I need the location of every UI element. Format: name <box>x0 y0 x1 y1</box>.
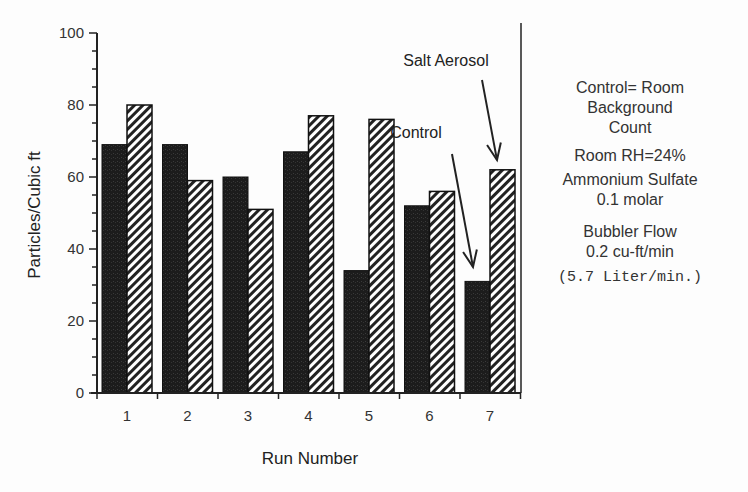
bar-salt-aerosol <box>127 105 152 393</box>
note-line: 0.1 molar <box>540 190 720 210</box>
y-tick-label: 80 <box>67 96 84 113</box>
note-line: Control= Room <box>540 78 720 98</box>
x-tick-label: 1 <box>123 407 131 424</box>
bars-group <box>102 105 515 393</box>
note-line: Background <box>540 98 720 118</box>
note-line: Bubbler Flow <box>540 222 720 242</box>
arrow-control-icon <box>452 154 477 267</box>
annotation-salt-aerosol: Salt Aerosol <box>403 52 488 69</box>
note-line: Room RH=24% <box>540 146 720 166</box>
bar-salt-aerosol <box>248 209 273 393</box>
note-line: Ammonium Sulfate <box>540 170 720 190</box>
x-tick-label: 3 <box>244 407 252 424</box>
y-tick-label: 100 <box>59 24 84 41</box>
bar-control <box>102 145 127 393</box>
bar-salt-aerosol <box>490 170 515 393</box>
x-tick-label: 6 <box>425 407 433 424</box>
bar-control <box>344 271 369 393</box>
y-tick-label: 40 <box>67 240 84 257</box>
bar-control <box>223 177 248 393</box>
note-line: 0.2 cu-ft/min <box>540 242 720 262</box>
note-line: Count <box>540 118 720 138</box>
bar-control <box>284 152 309 393</box>
x-tick-label: 7 <box>486 407 494 424</box>
arrow-salt-aerosol-icon <box>482 80 501 160</box>
bar-salt-aerosol <box>430 191 455 393</box>
bar-salt-aerosol <box>188 181 213 393</box>
bar-control <box>163 145 188 393</box>
y-axis-title: Particles/Cubic ft <box>25 151 44 279</box>
notes-block: Control= Room Background Count Room RH=2… <box>540 78 720 288</box>
bar-salt-aerosol <box>369 119 394 393</box>
annotation-control: Control <box>390 124 442 141</box>
bar-control <box>465 281 490 393</box>
x-tick-label: 4 <box>304 407 312 424</box>
y-tick-label: 0 <box>76 384 84 401</box>
bar-salt-aerosol <box>309 116 334 393</box>
y-tick-label: 60 <box>67 168 84 185</box>
y-tick-label: 20 <box>67 312 84 329</box>
bar-control <box>405 206 430 393</box>
x-axis-title: Run Number <box>262 449 359 468</box>
x-tick-label: 5 <box>365 407 373 424</box>
x-tick-label: 2 <box>183 407 191 424</box>
note-line: (5.7 Liter/min.) <box>540 268 720 288</box>
